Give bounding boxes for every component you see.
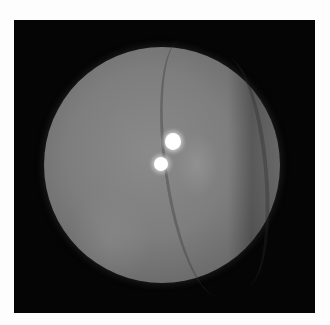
reflex-spot-lower: [154, 157, 168, 171]
reflex-spot-upper: [165, 133, 181, 150]
image-frame: [14, 20, 315, 313]
